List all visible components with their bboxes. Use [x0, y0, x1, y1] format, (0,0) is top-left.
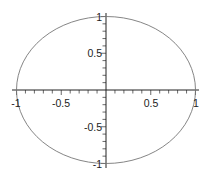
x-tick-label: -1: [11, 97, 20, 109]
circle-plot: -1 -0.5 0.5 1 1 0.5 -0.5 -1: [0, 0, 208, 177]
x-tick-label: -0.5: [52, 97, 70, 109]
y-tick-label: 1: [96, 11, 102, 23]
y-tick-label: -0.5: [84, 121, 102, 133]
x-tick-label: 1: [193, 97, 199, 109]
y-tick-label: -1: [93, 158, 102, 170]
y-tick-label: 0.5: [87, 47, 102, 59]
x-tick-label: 0.5: [144, 97, 159, 109]
